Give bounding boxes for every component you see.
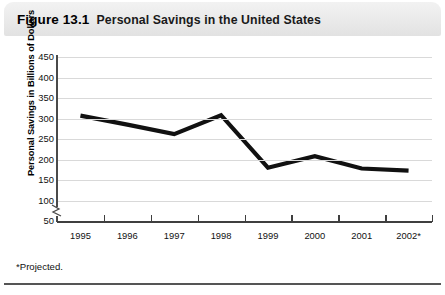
- y-axis-line: [56, 55, 58, 207]
- y-axis-tick-labels: 45040035030025020015010050: [14, 0, 54, 295]
- y-axis-tick-label: 100: [20, 195, 54, 206]
- y-axis-tick-label: 200: [20, 154, 54, 165]
- figure-footnote: *Projected.: [16, 261, 63, 272]
- figure-header-text: Figure 13.1 Personal Savings in the Unit…: [17, 12, 321, 27]
- y-axis-tick-label: 350: [20, 92, 54, 103]
- gridline: [57, 139, 432, 140]
- axis-break-icon: [50, 203, 66, 219]
- y-axis-tick-label: 50: [20, 215, 54, 226]
- data-series-line: [80, 115, 408, 170]
- y-axis-tick-label: 150: [20, 174, 54, 185]
- figure-title: Personal Savings in the United States: [97, 13, 321, 27]
- plot-area: [57, 57, 432, 221]
- y-axis-tick-label: 400: [20, 72, 54, 83]
- x-axis-tick-mark: [245, 215, 246, 222]
- y-axis-tick-label: 250: [20, 133, 54, 144]
- gridline: [57, 78, 432, 79]
- x-axis-tick-mark: [432, 215, 433, 222]
- gridline: [57, 160, 432, 161]
- x-axis-tick-mark: [104, 215, 105, 222]
- x-axis-tick-label: 2002*: [381, 230, 437, 241]
- x-axis-tick-mark: [291, 215, 292, 222]
- x-axis-tick-mark: [151, 215, 152, 222]
- gridline: [57, 98, 432, 99]
- gridline: [57, 180, 432, 181]
- x-axis-tick-mark: [198, 215, 199, 222]
- gridline: [57, 119, 432, 120]
- figure-container: Figure 13.1 Personal Savings in the Unit…: [0, 0, 445, 295]
- y-axis-tick-label: 450: [20, 51, 54, 62]
- gridline: [57, 201, 432, 202]
- gridline: [57, 57, 432, 58]
- x-axis-tick-mark: [385, 215, 386, 222]
- x-axis-tick-mark: [338, 215, 339, 222]
- figure-bottom-rule: [4, 283, 441, 285]
- y-axis-tick-label: 300: [20, 113, 54, 124]
